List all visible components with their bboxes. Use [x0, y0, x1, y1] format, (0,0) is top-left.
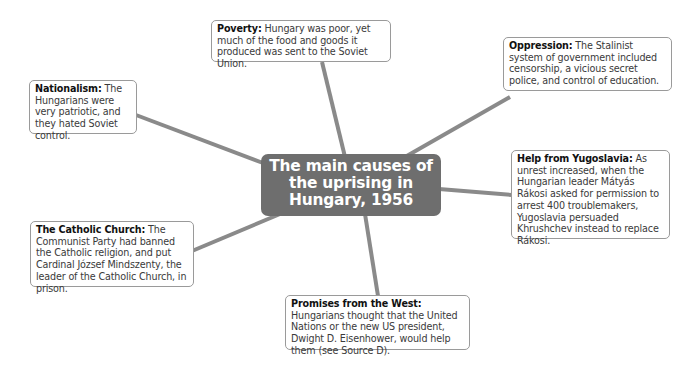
- node-catholic-church-label: The Catholic Church:: [36, 224, 145, 235]
- connector-poverty: [322, 62, 345, 157]
- node-yugoslavia-label: Help from Yugoslavia:: [517, 153, 633, 164]
- connector-oppression: [405, 97, 510, 157]
- connector-nationalism: [136, 115, 263, 163]
- central-topic-line-2: the uprising in: [261, 175, 441, 192]
- node-catholic-church: The Catholic Church: The Communist Party…: [30, 221, 194, 287]
- connector-catholic: [192, 214, 280, 251]
- node-yugoslavia-text: As unrest increased, when the Hungarian …: [517, 153, 659, 246]
- node-promises-west-label: Promises from the West:: [291, 298, 421, 309]
- connector-west: [365, 214, 378, 296]
- connector-yugoslavia: [439, 189, 512, 195]
- node-promises-west-text: Hungarians thought that the United Natio…: [291, 310, 457, 356]
- node-nationalism: Nationalism: The Hungarians were very pa…: [29, 80, 137, 134]
- node-nationalism-label: Nationalism:: [35, 83, 102, 94]
- central-topic: The main causes of the uprising in Hunga…: [261, 154, 441, 216]
- node-oppression-label: Oppression:: [509, 40, 572, 51]
- node-oppression: Oppression: The Stalinist system of gove…: [503, 37, 672, 91]
- node-poverty: Poverty: Hungary was poor, yet much of t…: [211, 20, 391, 62]
- central-topic-line-3: Hungary, 1956: [261, 192, 441, 209]
- node-poverty-label: Poverty:: [217, 23, 262, 34]
- node-promises-west: Promises from the West: Hungarians thoug…: [285, 295, 470, 350]
- central-topic-line-1: The main causes of: [261, 158, 441, 175]
- node-yugoslavia: Help from Yugoslavia: As unrest increase…: [511, 150, 670, 239]
